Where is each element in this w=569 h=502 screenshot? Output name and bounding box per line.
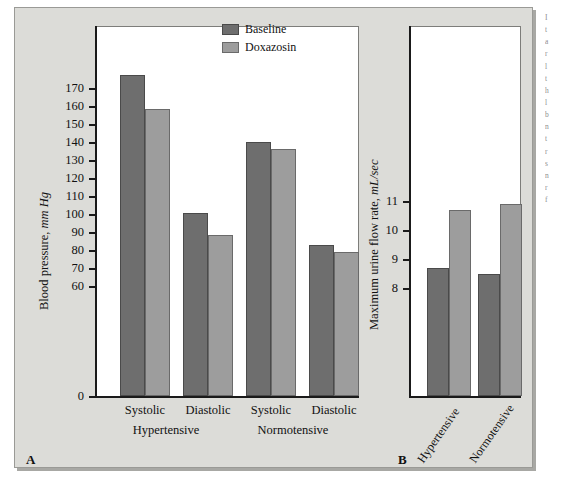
bar-normotensive-systolic-doxazosin: [271, 149, 296, 396]
bar-hypertensive-diastolic-doxazosin: [208, 235, 233, 396]
plate-shadow-right: [533, 10, 536, 471]
panel-a-tick-label: 110: [48, 190, 84, 203]
panel-a-x-axis: [95, 396, 359, 398]
panel-b-y-axis-title: Maximum urine flow rate, mL/sec: [368, 160, 381, 330]
panel-a-letter: A: [26, 452, 35, 468]
caption-sliver-line: s: [545, 158, 569, 170]
panel-a-category-label-2: Systolic: [236, 404, 306, 417]
panel-b-letter: B: [398, 452, 407, 468]
panel-a-group-label-hypertensive: Hypertensive: [111, 424, 221, 437]
panel-a-tick-label: 60: [48, 280, 84, 293]
panel-b-tick: [403, 259, 410, 261]
panel-a-tick: [89, 268, 96, 270]
panel-a-tick: [89, 214, 96, 216]
caption-sliver-line: l: [545, 61, 569, 73]
bar-hypertensive-systolic-doxazosin: [145, 109, 170, 396]
panel-b-y-axis: [409, 26, 411, 398]
panel-a-group-label-normotensive: Normotensive: [238, 424, 348, 437]
panel-a-zero-tick: [89, 396, 96, 398]
panel-a-tick: [89, 196, 96, 198]
panel-b-y-axis-title-plain: Maximum urine flow rate,: [367, 195, 381, 330]
panel-a-tick-label: 170: [48, 82, 84, 95]
panel-b-tick: [403, 201, 410, 203]
caption-sliver-line: I: [545, 12, 569, 24]
panel-a-category-label-0: Systolic: [110, 404, 180, 417]
plate-shadow-bottom: [17, 468, 536, 471]
bar-b-normotensive-doxazosin: [500, 204, 522, 396]
panel-a-tick-label: 80: [48, 244, 84, 257]
caption-sliver-line: h: [545, 85, 569, 97]
panel-a-tick: [89, 286, 96, 288]
caption-sliver-line: b: [545, 109, 569, 121]
caption-sliver-line: l: [545, 97, 569, 109]
panel-a-tick-label: 70: [48, 262, 84, 275]
panel-b-x-axis: [409, 396, 521, 398]
panel-a-tick: [89, 106, 96, 108]
panel-a-tick-label: 150: [48, 118, 84, 131]
panel-a-tick: [89, 250, 96, 252]
bar-normotensive-diastolic-baseline: [309, 245, 334, 396]
caption-sliver-line: n: [545, 170, 569, 182]
panel-a-category-label-3: Diastolic: [299, 404, 369, 417]
caption-sliver-line: a: [545, 36, 569, 48]
panel-b-tick: [403, 230, 410, 232]
legend: Baseline Doxazosin: [222, 22, 308, 58]
bar-hypertensive-diastolic-baseline: [183, 213, 208, 396]
panel-a-tick: [89, 160, 96, 162]
legend-label-baseline: Baseline: [245, 22, 286, 37]
caption-sliver-line: t: [545, 133, 569, 145]
bar-normotensive-diastolic-doxazosin: [334, 252, 359, 396]
panel-a-y-axis-title-plain: Blood pressure,: [37, 228, 51, 310]
figure-container: 170 160 150 140 130 120 110 100 90 80 70…: [0, 0, 569, 502]
caption-sliver-line: t: [545, 73, 569, 85]
caption-sliver-line: r: [545, 146, 569, 158]
panel-a-y-axis: [95, 26, 97, 398]
legend-label-doxazosin: Doxazosin: [245, 40, 296, 55]
panel-a-tick-label: 90: [48, 226, 84, 239]
panel-a-tick-label: 120: [48, 172, 84, 185]
caption-sliver-line: t: [545, 24, 569, 36]
bar-b-hypertensive-baseline: [427, 268, 449, 396]
panel-a-tick: [89, 142, 96, 144]
panel-a-zero-tick-label: 0: [48, 390, 84, 403]
legend-swatch-doxazosin-icon: [222, 42, 239, 53]
caption-sliver-line: n: [545, 121, 569, 133]
panel-a-tick: [89, 88, 96, 90]
panel-a-category-label-1: Diastolic: [173, 404, 243, 417]
bar-b-hypertensive-doxazosin: [449, 210, 471, 396]
panel-a-tick: [89, 232, 96, 234]
panel-a-y-axis-title: Blood pressure, mm Hg: [38, 192, 51, 310]
panel-b-tick: [403, 288, 410, 290]
bar-hypertensive-systolic-baseline: [120, 75, 145, 396]
panel-a-y-axis-title-units: mm Hg: [37, 192, 51, 228]
panel-a-tick: [89, 124, 96, 126]
panel-a-tick-label: 130: [48, 154, 84, 167]
legend-item-doxazosin: Doxazosin: [222, 40, 308, 55]
panel-a-tick-label: 160: [48, 100, 84, 113]
panel-a-tick-label: 140: [48, 136, 84, 149]
legend-item-baseline: Baseline: [222, 22, 308, 37]
caption-sliver-line: f: [545, 194, 569, 206]
bar-b-normotensive-baseline: [478, 274, 500, 396]
panel-a-tick: [89, 178, 96, 180]
bar-normotensive-systolic-baseline: [246, 142, 271, 396]
caption-sliver-line: r: [545, 48, 569, 60]
caption-sliver-line: r: [545, 182, 569, 194]
panel-b-y-axis-title-units: mL/sec: [367, 160, 381, 195]
panel-a-tick-label: 100: [48, 208, 84, 221]
caption-sliver: I t a r l t h l b n t r s n r f: [545, 12, 569, 302]
legend-swatch-baseline-icon: [222, 24, 239, 35]
